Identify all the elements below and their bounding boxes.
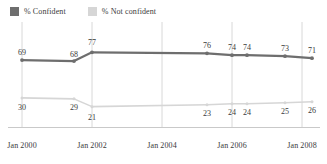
data-label: 21 bbox=[88, 113, 96, 122]
data-label: 26 bbox=[308, 106, 316, 115]
data-label: 77 bbox=[88, 38, 96, 47]
data-label: 76 bbox=[203, 41, 211, 50]
data-point bbox=[311, 100, 314, 103]
data-label: 74 bbox=[228, 43, 236, 52]
data-label: 30 bbox=[18, 103, 26, 112]
x-tick-label-3: Jan 2006 bbox=[217, 141, 246, 150]
x-tick-label-2: Jan 2004 bbox=[147, 141, 176, 150]
series-line bbox=[22, 52, 312, 61]
legend-label-confident: % Confident bbox=[24, 7, 66, 16]
data-label: 68 bbox=[70, 50, 78, 59]
x-tick-label-0: Jan 2000 bbox=[7, 141, 36, 150]
chart-container: % Confident % Not confident 302921232424… bbox=[0, 0, 327, 164]
data-point bbox=[91, 105, 94, 108]
data-point bbox=[246, 102, 249, 105]
legend-item-not-confident: % Not confident bbox=[88, 7, 156, 16]
data-label: 25 bbox=[281, 107, 289, 116]
legend-swatch-confident bbox=[10, 7, 19, 16]
data-label: 74 bbox=[243, 43, 251, 52]
x-axis: Jan 2000Jan 2002Jan 2004Jan 2006Jan 2008 bbox=[0, 136, 327, 164]
legend-swatch-not-confident bbox=[88, 7, 97, 16]
series-line bbox=[22, 98, 312, 107]
data-point bbox=[206, 103, 209, 106]
data-point bbox=[231, 102, 234, 105]
data-point bbox=[90, 50, 94, 54]
legend-item-confident: % Confident bbox=[10, 7, 66, 16]
data-point bbox=[21, 96, 24, 99]
data-label: 24 bbox=[243, 108, 251, 117]
series-confident bbox=[20, 50, 314, 63]
plot-area: 3029212324242526 6968777674747371 bbox=[0, 22, 327, 135]
chart-legend: % Confident % Not confident bbox=[0, 0, 327, 22]
data-point bbox=[20, 58, 24, 62]
data-point bbox=[205, 51, 209, 55]
data-point bbox=[283, 54, 287, 58]
data-point bbox=[72, 59, 76, 63]
data-point bbox=[245, 53, 249, 57]
data-point bbox=[73, 97, 76, 100]
legend-label-not-confident: % Not confident bbox=[102, 7, 156, 16]
data-label: 29 bbox=[70, 103, 78, 112]
data-label: 69 bbox=[18, 48, 26, 57]
data-point bbox=[310, 56, 314, 60]
data-label: 71 bbox=[308, 46, 316, 55]
gridlines bbox=[22, 22, 302, 127]
data-label: 23 bbox=[203, 109, 211, 118]
data-label: 24 bbox=[228, 108, 236, 117]
chart-plot-svg: 3029212324242526 6968777674747371 bbox=[0, 22, 327, 135]
x-tick-label-1: Jan 2002 bbox=[77, 141, 106, 150]
series-not-confident bbox=[21, 96, 314, 108]
data-label: 73 bbox=[281, 44, 289, 53]
data-point bbox=[230, 53, 234, 57]
data-point bbox=[284, 101, 287, 104]
x-tick-label-4: Jan 2008 bbox=[287, 141, 316, 150]
